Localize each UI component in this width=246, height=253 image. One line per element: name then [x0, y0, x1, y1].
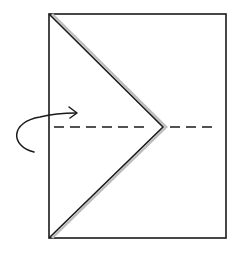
origami-fold-diagram [0, 0, 246, 253]
